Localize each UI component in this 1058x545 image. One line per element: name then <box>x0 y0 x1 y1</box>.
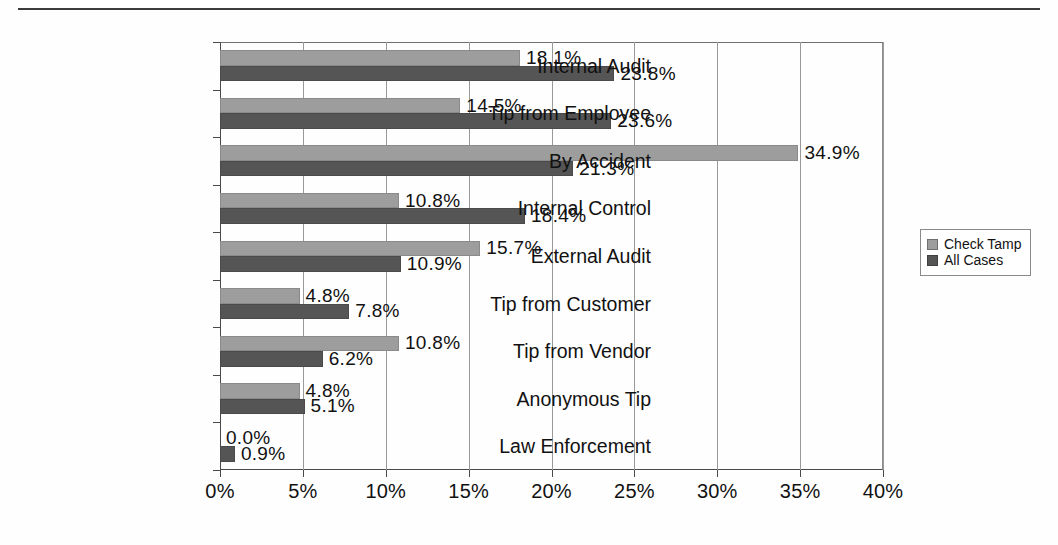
category-label: Law Enforcement <box>499 435 651 458</box>
bar-value-label: 7.8% <box>355 300 400 322</box>
y-axis-tick <box>213 232 220 233</box>
bar-value-label: 10.8% <box>405 332 460 354</box>
y-axis-tick <box>213 470 220 471</box>
bar-value-label: 6.2% <box>329 348 374 370</box>
x-axis-tick <box>883 470 884 477</box>
x-axis-label: 35% <box>780 480 821 503</box>
chart-page: 18.1%23.8%14.5%23.6%34.9%21.3%10.8%18.4%… <box>0 0 1058 545</box>
bar-all-cases <box>220 399 305 415</box>
category-label: External Audit <box>531 245 651 268</box>
x-axis-tick <box>303 470 304 477</box>
x-axis-tick <box>386 470 387 477</box>
bar-check-tamp <box>220 288 300 304</box>
chart-legend: Check TampAll Cases <box>920 229 1031 276</box>
y-axis-tick <box>213 185 220 186</box>
page-top-rule <box>18 8 1040 10</box>
bar-check-tamp <box>220 145 798 161</box>
x-axis-tick <box>634 470 635 477</box>
x-axis-label: 0% <box>205 480 234 503</box>
legend-item: Check Tamp <box>927 237 1022 251</box>
category-label: By Accident <box>549 149 651 172</box>
bar-check-tamp <box>220 383 300 399</box>
gridline <box>800 42 801 470</box>
legend-item: All Cases <box>927 253 1022 267</box>
bar-check-tamp <box>220 98 460 114</box>
y-axis-tick <box>213 327 220 328</box>
legend-label: All Cases <box>944 253 1003 267</box>
legend-label: Check Tamp <box>944 237 1022 251</box>
x-axis-label: 5% <box>288 480 317 503</box>
y-axis-tick <box>213 375 220 376</box>
category-label: Internal Control <box>518 197 651 220</box>
bar-value-label: 0.9% <box>241 443 286 465</box>
category-label: Anonymous Tip <box>517 387 651 410</box>
bar-all-cases <box>220 351 323 367</box>
y-axis-tick <box>213 42 220 43</box>
y-axis-tick <box>213 422 220 423</box>
x-axis-tick <box>800 470 801 477</box>
bar-value-label: 34.9% <box>804 142 859 164</box>
y-axis-tick <box>213 90 220 91</box>
bar-all-cases <box>220 446 235 462</box>
gridline <box>717 42 718 470</box>
bar-all-cases <box>220 208 525 224</box>
x-axis-tick <box>220 470 221 477</box>
category-label: Tip from Customer <box>490 292 651 315</box>
bar-check-tamp <box>220 193 399 209</box>
x-axis-label: 20% <box>531 480 572 503</box>
category-label: Tip from Vendor <box>513 340 651 363</box>
bar-all-cases <box>220 161 573 177</box>
legend-swatch-icon <box>927 255 938 266</box>
category-label: Tip from Employee <box>488 102 651 125</box>
x-axis-label: 30% <box>697 480 738 503</box>
legend-swatch-icon <box>927 239 938 250</box>
plot-area: 18.1%23.8%14.5%23.6%34.9%21.3%10.8%18.4%… <box>220 42 883 470</box>
x-axis-tick <box>469 470 470 477</box>
bar-check-tamp <box>220 50 520 66</box>
y-axis-tick <box>213 280 220 281</box>
x-axis-tick <box>552 470 553 477</box>
category-label: Internal Audit <box>537 54 651 77</box>
bar-all-cases <box>220 304 349 320</box>
bar-all-cases <box>220 256 401 272</box>
x-axis-label: 40% <box>863 480 904 503</box>
x-axis-label: 10% <box>365 480 406 503</box>
x-axis-tick <box>717 470 718 477</box>
bar-value-label: 5.1% <box>311 395 356 417</box>
x-axis-label: 25% <box>614 480 655 503</box>
gridline <box>883 42 884 470</box>
y-axis-tick <box>213 137 220 138</box>
bar-value-label: 10.9% <box>407 253 462 275</box>
x-axis-label: 15% <box>448 480 489 503</box>
